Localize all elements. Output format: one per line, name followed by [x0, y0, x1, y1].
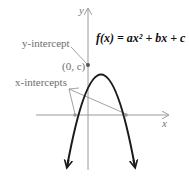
x-intercept-leader-line-left [69, 89, 75, 114]
x-intercept-leader-line-top [69, 88, 79, 89]
x-intercepts-label: x-intercepts [15, 76, 67, 88]
x-intercept-point-left [73, 113, 77, 117]
x-intercept-leader-line-right [69, 89, 126, 114]
formula-label: f(x) = ax² + bx + c [96, 31, 186, 45]
y-intercept-point [86, 63, 90, 67]
x-intercept-point-right [124, 113, 128, 117]
y-axis-label: y [78, 4, 84, 16]
y-intercept-point-label: (0, c) [62, 60, 86, 73]
x-axis-label: x [161, 117, 167, 129]
parabola-diagram: y x f(x) = ax² + bx + c y-intercept (0, … [0, 0, 189, 181]
y-intercept-label: y-intercept [22, 37, 70, 49]
